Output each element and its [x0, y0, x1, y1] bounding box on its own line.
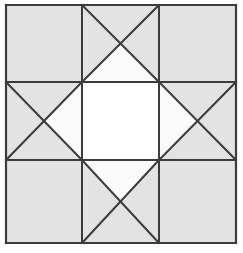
quilt-block-figure [0, 0, 243, 253]
cell-bottom-left-fill [6, 160, 82, 243]
quilt-block-diagram [0, 0, 243, 253]
cell-bottom-right-fill [159, 160, 236, 243]
cell-top-right-fill [159, 5, 236, 82]
cell-top-left-fill [6, 5, 82, 82]
cell-middle-center-fill [82, 82, 159, 160]
